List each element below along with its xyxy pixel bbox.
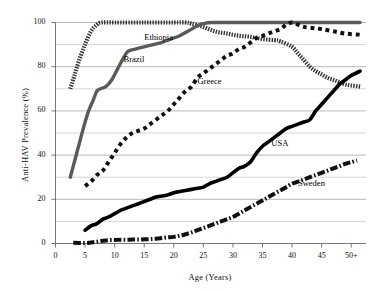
x-tick-label: 40 (279, 251, 305, 260)
x-tick-label: 30 (220, 251, 246, 260)
series-label-usa: USA (271, 138, 288, 148)
x-tick-label: 35 (250, 251, 276, 260)
series-line-sweden (73, 161, 357, 243)
gridlines-group (56, 23, 367, 222)
y-tick-label: 60 (24, 105, 46, 114)
x-tick-label: 10 (102, 251, 128, 260)
series-label-brazil: Brazil (124, 54, 145, 64)
x-tick-label: 5 (72, 251, 98, 260)
series-label-sweden: Sweden (298, 178, 325, 188)
x-tick-label: 20 (161, 251, 187, 260)
y-tick-label: 40 (24, 150, 46, 159)
x-tick-label: 50+ (338, 251, 364, 260)
x-axis-title: Age (Years) (55, 272, 365, 282)
y-tick-label: 0 (24, 238, 46, 247)
x-tick-label: 0 (43, 251, 69, 260)
series-line-greece (85, 23, 360, 187)
y-axis-title: Anti-HAV Prevalence (%) (20, 60, 30, 210)
chart-plot-area (0, 0, 389, 291)
series-label-greece: Greece (197, 76, 221, 86)
series-label-ethiopia: Ethiopia (144, 32, 173, 42)
y-tick-label: 80 (24, 61, 46, 70)
x-tick-label: 45 (309, 251, 335, 260)
series-line-usa (85, 71, 360, 230)
x-tick-label: 15 (131, 251, 157, 260)
chart-container: Anti-HAV Prevalence (%) Age (Years) 0204… (0, 0, 389, 291)
series-line-brazil (70, 22, 360, 177)
y-tick-label: 20 (24, 194, 46, 203)
y-tick-label: 100 (24, 17, 46, 26)
axis-ticks-group (52, 23, 352, 248)
x-tick-label: 25 (190, 251, 216, 260)
